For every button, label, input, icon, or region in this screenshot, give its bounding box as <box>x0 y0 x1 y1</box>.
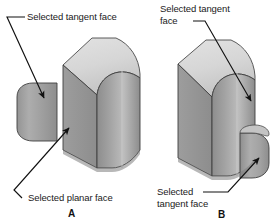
label-a-selected-planar-face: Selected planar face <box>28 192 113 203</box>
label-b-selected-tangent-line1: Selected tangent <box>160 3 230 14</box>
illustration-canvas <box>0 0 279 224</box>
tangent-cylinder-a <box>17 83 57 141</box>
caption-a: A <box>68 208 75 219</box>
caption-b: B <box>218 209 225 220</box>
label-b-selected-tangent-line2: face <box>160 15 178 26</box>
label-b-selected-bottom-line1: Selected <box>157 186 193 197</box>
cylinder-face-a <box>17 83 57 141</box>
rounded-front-face-a <box>97 72 140 168</box>
solid-model-b <box>178 40 269 180</box>
figure-root: Selected tangent face Selected planar fa… <box>0 0 279 224</box>
label-a-selected-tangent-face: Selected tangent face <box>27 11 117 22</box>
label-b-selected-bottom-line2: tangent face <box>157 198 208 209</box>
solid-model-a <box>17 38 140 172</box>
